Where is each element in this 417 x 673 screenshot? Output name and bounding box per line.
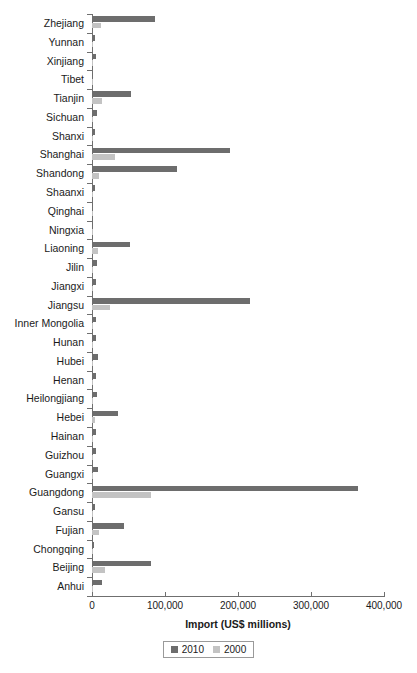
bar-2000-guangdong[interactable] [92,492,151,498]
bar-2010-anhui[interactable] [92,580,102,586]
bar-2010-tianjin[interactable] [92,91,131,97]
y-axis-label-guangdong: Guangdong [0,483,84,502]
bar-2000-shanxi[interactable] [92,136,93,142]
bar-2010-xinjiang[interactable] [92,54,96,60]
bar-2000-tianjin[interactable] [92,98,102,104]
bar-2010-hainan[interactable] [92,429,96,435]
y-tick [87,164,92,165]
bar-group [92,467,384,481]
bar-2010-chongqing[interactable] [92,542,94,548]
y-tick [87,277,92,278]
bar-2010-heilongjiang[interactable] [92,392,97,398]
bar-2010-shanxi[interactable] [92,129,95,135]
bar-2010-guangdong[interactable] [92,486,358,492]
bar-2000-jiangsu[interactable] [92,305,110,311]
bar-2000-ningxia[interactable] [92,229,93,235]
bar-2010-beijing[interactable] [92,561,151,567]
category-row: Shandong [0,164,417,183]
bar-2000-hebei[interactable] [92,417,95,423]
bar-2000-qinghai[interactable] [92,211,93,217]
bar-2010-qinghai[interactable] [92,204,93,210]
bar-2000-hunan[interactable] [92,342,93,348]
legend-swatch-2000 [213,646,220,653]
y-tick [87,540,92,541]
bar-2000-hainan[interactable] [92,436,93,442]
bar-2000-anhui[interactable] [92,586,93,592]
bar-2010-gansu[interactable] [92,504,95,510]
bar-2010-henan[interactable] [92,373,96,379]
bar-2000-tibet[interactable] [92,79,93,85]
bar-group [92,110,384,124]
bar-2010-guizhou[interactable] [92,448,96,454]
bar-2010-shaanxi[interactable] [92,185,95,191]
bar-2000-yunnan[interactable] [92,42,93,48]
bar-2000-guangxi[interactable] [92,473,93,479]
bar-group [92,73,384,87]
y-tick [87,408,92,409]
bar-2000-hubei[interactable] [92,361,93,367]
y-tick [87,352,92,353]
bar-2010-inner-mongolia[interactable] [92,317,96,323]
bar-2010-guangxi[interactable] [92,467,98,473]
y-axis-label-hebei: Hebei [0,408,84,427]
bar-2000-jilin[interactable] [92,267,93,273]
y-tick [87,202,92,203]
bar-2000-fujian[interactable] [92,530,99,536]
bar-2010-jilin[interactable] [92,260,97,266]
y-tick [87,183,92,184]
bar-2000-chongqing[interactable] [92,549,93,555]
legend-item-2000[interactable]: 2000 [213,644,246,655]
bar-2010-jiangxi[interactable] [92,279,96,285]
bar-chart: ZhejiangYunnanXinjiangTibetTianjinSichua… [0,0,417,673]
bar-2000-shanghai[interactable] [92,154,115,160]
bar-2000-zhejiang[interactable] [92,23,101,29]
bar-2010-hebei[interactable] [92,411,118,417]
bar-2010-fujian[interactable] [92,523,124,529]
bar-group [92,35,384,49]
bar-2010-hubei[interactable] [92,354,98,360]
y-tick [87,239,92,240]
bar-2010-tibet[interactable] [92,73,93,79]
legend-label-2000: 2000 [224,644,246,655]
bar-2010-yunnan[interactable] [92,35,95,41]
bar-2010-hunan[interactable] [92,335,96,341]
y-tick [87,127,92,128]
bar-2000-shaanxi[interactable] [92,192,93,198]
bar-group [92,16,384,30]
x-tick [384,592,385,597]
category-row: Hunan [0,333,417,352]
category-row: Sichuan [0,108,417,127]
bar-2000-gansu[interactable] [92,511,93,517]
category-row: Jiangxi [0,277,417,296]
bar-2000-inner-mongolia[interactable] [92,323,93,329]
bar-2010-liaoning[interactable] [92,242,130,248]
legend-label-2010: 2010 [182,644,204,655]
bar-2000-sichuan[interactable] [92,117,93,123]
y-axis-label-guizhou: Guizhou [0,446,84,465]
bar-2010-shanghai[interactable] [92,148,230,154]
x-tick-label: 300,000 [276,600,346,611]
category-row: Hebei [0,408,417,427]
bar-2010-ningxia[interactable] [92,223,93,229]
category-row: Chongqing [0,540,417,559]
y-tick [87,314,92,315]
bar-2000-liaoning[interactable] [92,248,98,254]
bar-group [92,392,384,406]
bar-group [92,91,384,105]
bar-2000-heilongjiang[interactable] [92,398,93,404]
bar-2000-shandong[interactable] [92,173,99,179]
bar-2010-sichuan[interactable] [92,110,97,116]
bar-2000-jiangxi[interactable] [92,286,93,292]
bar-2000-henan[interactable] [92,380,93,386]
category-row: Hubei [0,352,417,371]
bar-2010-zhejiang[interactable] [92,16,155,22]
bar-2000-beijing[interactable] [92,567,105,573]
bar-2000-guizhou[interactable] [92,455,93,461]
bar-2010-jiangsu[interactable] [92,298,250,304]
bar-2010-shandong[interactable] [92,166,177,172]
bar-2000-xinjiang[interactable] [92,60,93,66]
legend-item-2010[interactable]: 2010 [171,644,204,655]
y-axis-label-fujian: Fujian [0,521,84,540]
y-axis-label-qinghai: Qinghai [0,202,84,221]
y-axis-label-xinjiang: Xinjiang [0,52,84,71]
